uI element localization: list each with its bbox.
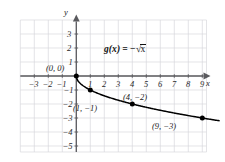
point-marker-9-neg3	[200, 116, 205, 121]
x-tick-label-1: 1	[88, 80, 92, 89]
x-tick-label-neg3: −3	[29, 80, 39, 89]
x-tick-label-9: 9	[200, 80, 204, 89]
equals-sign: =	[120, 44, 130, 54]
y-axis-arrow	[73, 15, 80, 22]
point-label-origin: (0, 0)	[46, 64, 64, 73]
point-marker-4-neg2	[130, 102, 135, 107]
x-tick-label-5: 5	[144, 80, 148, 89]
radicand: x	[140, 44, 146, 55]
x-tick-label-neg1: −1	[57, 80, 67, 89]
function-equation: g(x)=−√x	[104, 44, 146, 55]
x-tick-label-3: 3	[116, 80, 120, 89]
y-tick-label-neg3: −3	[63, 114, 73, 123]
y-tick-label-3: 3	[67, 30, 71, 39]
x-tick-label-4: 4	[130, 80, 134, 89]
function-name: g(x)	[104, 44, 120, 54]
x-tick-label-neg2: −2	[43, 80, 53, 89]
y-tick-label-neg5: −5	[63, 142, 73, 151]
x-tick-label-7: 7	[172, 80, 176, 89]
point-label-1-neg1: (1, −1)	[73, 104, 97, 113]
point-label-9-neg3: (9, −3)	[152, 122, 176, 131]
x-tick-label-8: 8	[186, 80, 190, 89]
graph-figure: y x 3 2 1 −1 −2 −3 −4 −5 −3 −2 −1 1 2 3 …	[0, 0, 225, 162]
y-tick-label-1: 1	[69, 58, 73, 67]
point-marker-0-0	[74, 74, 79, 79]
point-label-4-neg2: (4, −2)	[123, 93, 147, 102]
y-tick-label-neg2: −2	[63, 100, 73, 109]
x-tick-label-6: 6	[158, 80, 162, 89]
y-tick-label-neg4: −4	[63, 128, 73, 137]
y-axis	[73, 15, 80, 153]
x-axis-label: x	[206, 79, 210, 88]
y-tick-label-2: 2	[67, 44, 71, 53]
x-tick-label-2: 2	[102, 80, 106, 89]
radical-group: √x	[136, 44, 147, 55]
y-axis-label: y	[64, 8, 68, 17]
